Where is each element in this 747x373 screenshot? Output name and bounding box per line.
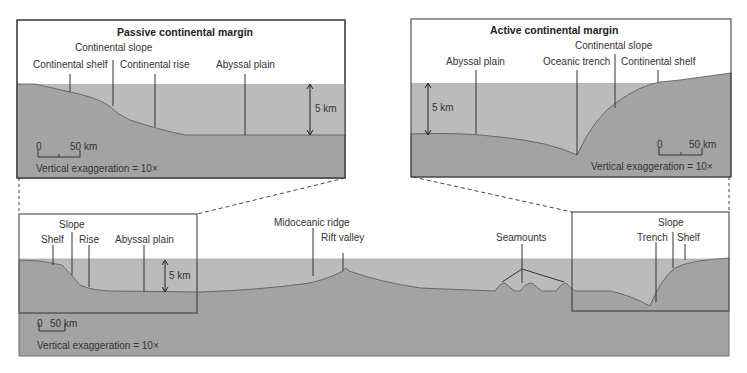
label-oceanic-trench: Oceanic trench <box>543 56 610 67</box>
label-abyssal-plain: Abyssal plain <box>446 56 505 67</box>
label-abyssal-plain: Abyssal plain <box>216 59 275 70</box>
label-continental-rise: Continental rise <box>120 59 189 70</box>
scale-zero: 0 <box>37 318 43 329</box>
label-rise: Rise <box>79 234 99 245</box>
label-rift-valley: Rift valley <box>321 232 364 243</box>
exaggeration-note: Vertical exaggeration = 10× <box>591 161 713 172</box>
label-slope-right: Slope <box>658 217 684 228</box>
scale-distance: 50 km <box>70 141 97 152</box>
depth-label: 5 km <box>169 270 191 281</box>
label-seamounts: Seamounts <box>496 232 547 243</box>
label-midoceanic-ridge: Midoceanic ridge <box>274 217 350 228</box>
label-shelf: Shelf <box>41 234 64 245</box>
scale-zero: 0 <box>657 139 663 150</box>
label-slope: Slope <box>59 219 85 230</box>
scale-distance: 50 km <box>50 318 77 329</box>
active-margin-panel <box>411 19 731 177</box>
passive-title: Passive continental margin <box>117 26 253 38</box>
depth-label: 5 km <box>432 102 454 113</box>
label-trench: Trench <box>637 232 668 243</box>
scale-distance: 50 km <box>689 139 716 150</box>
label-continental-shelf: Continental shelf <box>621 56 696 67</box>
scale-zero: 0 <box>36 141 42 152</box>
depth-label: 5 km <box>315 103 337 114</box>
label-continental-slope: Continental slope <box>575 40 652 51</box>
label-shelf-right: Shelf <box>677 232 700 243</box>
label-continental-shelf: Continental shelf <box>33 59 108 70</box>
label-abyssal-plain: Abyssal plain <box>115 234 174 245</box>
active-title: Active continental margin <box>490 24 618 36</box>
passive-margin-panel <box>17 20 345 178</box>
exaggeration-note: Vertical exaggeration = 10× <box>36 163 158 174</box>
label-continental-slope: Continental slope <box>75 42 152 53</box>
exaggeration-note: Vertical exaggeration = 10× <box>37 340 159 351</box>
